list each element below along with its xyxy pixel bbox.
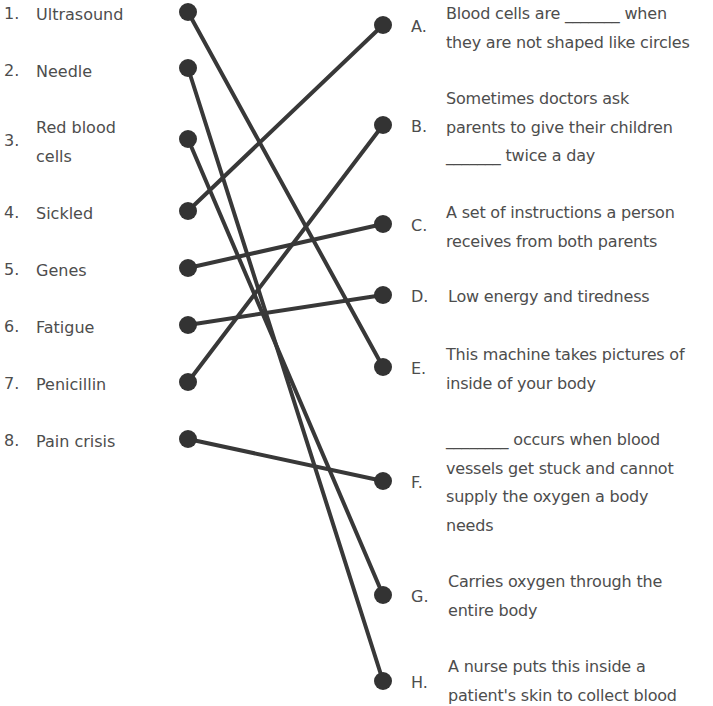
line-2-to-H [188, 68, 383, 681]
line-3-to-G [188, 139, 383, 595]
definition-A: Blood cells are _______ when they are no… [446, 0, 713, 57]
definition-F-line3: supply the oxygen a body [446, 483, 713, 512]
definition-G-line1: Carries oxygen through the [448, 568, 713, 597]
definition-F-line1: ________ occurs when blood [446, 426, 713, 455]
dot-term-7[interactable] [179, 373, 197, 391]
def-letter-G: G. [411, 587, 428, 606]
definition-F-line2: vessels get stuck and cannot [446, 455, 713, 484]
def-letter-E: E. [411, 359, 426, 378]
definition-B-line3: _______ twice a day [446, 142, 713, 171]
dot-def-B[interactable] [374, 116, 392, 134]
definition-D: Low energy and tiredness [448, 283, 713, 312]
dot-term-6[interactable] [179, 316, 197, 334]
dot-term-1[interactable] [179, 3, 197, 21]
definition-H-line2: patient's skin to collect blood [448, 682, 713, 706]
dot-term-3[interactable] [179, 130, 197, 148]
definition-A-line1: Blood cells are _______ when [446, 0, 713, 29]
line-1-to-E [188, 12, 383, 367]
def-letter-D: D. [411, 287, 428, 306]
dot-def-A[interactable] [374, 16, 392, 34]
definition-E-line2: inside of your body [446, 370, 713, 399]
dot-def-C[interactable] [374, 215, 392, 233]
definition-H: A nurse puts this inside a patient's ski… [448, 653, 713, 706]
line-4-to-A [188, 25, 383, 211]
definition-C-line2: receives from both parents [446, 228, 713, 257]
dot-term-4[interactable] [179, 202, 197, 220]
def-letter-B: B. [411, 117, 427, 136]
def-letter-F: F. [411, 473, 423, 492]
definition-C-line1: A set of instructions a person [446, 199, 713, 228]
dot-def-H[interactable] [374, 672, 392, 690]
definition-B-line1: Sometimes doctors ask [446, 85, 713, 114]
dot-def-E[interactable] [374, 358, 392, 376]
definition-E-line1: This machine takes pictures of [446, 341, 713, 370]
line-5-to-C [188, 224, 383, 268]
definition-D-line1: Low energy and tiredness [448, 283, 713, 312]
definition-B-line2: parents to give their children [446, 114, 713, 143]
def-letter-H: H. [411, 673, 428, 692]
definition-F: ________ occurs when blood vessels get s… [446, 426, 713, 540]
definition-F-line4: needs [446, 512, 713, 541]
left-dots [179, 3, 197, 448]
definition-H-line1: A nurse puts this inside a [448, 653, 713, 682]
dot-def-F[interactable] [374, 472, 392, 490]
definition-E: This machine takes pictures of inside of… [446, 341, 713, 398]
def-letter-A: A. [411, 17, 427, 36]
definition-A-line2: they are not shaped like circles [446, 29, 713, 58]
definition-C: A set of instructions a person receives … [446, 199, 713, 256]
connector-lines [188, 12, 383, 681]
definition-G-line2: entire body [448, 597, 713, 626]
def-letter-C: C. [411, 216, 427, 235]
dot-term-8[interactable] [179, 430, 197, 448]
definition-B: Sometimes doctors ask parents to give th… [446, 85, 713, 171]
definition-G: Carries oxygen through the entire body [448, 568, 713, 625]
line-8-to-F [188, 439, 383, 481]
dot-term-5[interactable] [179, 259, 197, 277]
dot-def-G[interactable] [374, 586, 392, 604]
dot-def-D[interactable] [374, 286, 392, 304]
dot-term-2[interactable] [179, 59, 197, 77]
